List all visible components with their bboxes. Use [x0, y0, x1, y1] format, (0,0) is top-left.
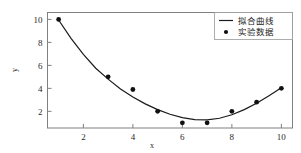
y-axis-title: y	[10, 68, 19, 72]
scatter-plot: 246810 246810 x y 拟合曲线 实验数据	[0, 0, 301, 153]
chart-figure: 246810 246810 x y 拟合曲线 实验数据	[0, 0, 301, 153]
y-tick-label: 6	[38, 61, 43, 71]
x-tick-label: 2	[81, 132, 86, 142]
y-tick-label: 4	[38, 84, 43, 94]
x-tick-label: 4	[131, 132, 136, 142]
data-point	[106, 74, 111, 79]
data-point	[56, 17, 61, 22]
y-tick-label: 2	[38, 107, 43, 117]
legend-label-fit-curve: 拟合曲线	[238, 16, 274, 26]
data-point	[180, 120, 185, 125]
x-axis-title: x	[150, 141, 154, 150]
data-point	[229, 109, 234, 114]
legend-dot-sample	[224, 30, 228, 34]
data-point	[155, 109, 160, 114]
x-tick-label: 10	[277, 132, 287, 142]
legend-label-experimental-data: 实验数据	[238, 27, 274, 37]
data-point	[130, 87, 135, 92]
y-tick-label: 8	[38, 38, 43, 48]
x-tick-label: 8	[230, 132, 235, 142]
x-axis-tick-labels: 246810	[81, 132, 286, 142]
data-point	[254, 100, 259, 105]
y-axis-tick-labels: 246810	[34, 15, 44, 117]
data-point	[279, 86, 284, 91]
y-axis-ticks	[48, 19, 52, 111]
y-tick-label: 10	[34, 15, 44, 25]
legend: 拟合曲线 实验数据	[215, 13, 293, 40]
data-point	[205, 120, 210, 125]
x-tick-label: 6	[180, 132, 185, 142]
